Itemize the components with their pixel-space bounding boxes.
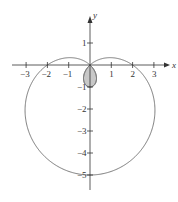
y-tick-label: 1 (82, 38, 87, 48)
x-tick-label: −3 (20, 69, 30, 79)
x-tick-label: 1 (109, 69, 114, 79)
x-tick-label: 2 (131, 69, 136, 79)
y-tick-label: −5 (77, 170, 87, 180)
x-tick-label: −1 (63, 69, 73, 79)
axes (12, 16, 170, 190)
x-tick-label: −2 (41, 69, 51, 79)
y-axis-label: y (92, 10, 97, 20)
x-tick-label: 3 (152, 69, 157, 79)
polar-plot: −3−2−11231−1−2−3−4−5xy (0, 0, 178, 202)
x-axis-label: x (171, 60, 176, 70)
y-tick-label: −2 (77, 104, 87, 114)
y-tick-label: −1 (77, 82, 87, 92)
y-tick-label: −4 (77, 148, 87, 158)
y-tick-label: −3 (77, 126, 87, 136)
